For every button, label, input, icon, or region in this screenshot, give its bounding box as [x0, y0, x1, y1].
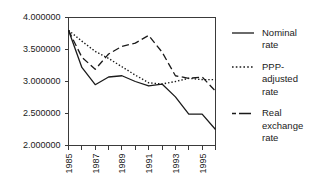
chart-legend: NominalratePPP-adjustedrateRealexchanger…	[232, 27, 303, 144]
series-group	[69, 30, 216, 129]
legend-label: adjusted	[262, 73, 298, 84]
series-line-dashed	[69, 30, 216, 91]
legend-label: rate	[262, 132, 278, 143]
x-tick-label: 1989	[117, 154, 127, 174]
y-axis: 4.0000003.5000003.0000002.5000002.000000	[23, 12, 69, 150]
legend-label: rate	[262, 39, 278, 50]
legend-label: exchange	[262, 120, 303, 131]
x-tick-label: 1991	[144, 154, 154, 174]
x-tick-label: 1987	[91, 154, 101, 174]
y-tick-label: 4.000000	[23, 12, 61, 22]
legend-label: Nominal	[262, 27, 297, 38]
chart-figure: 4.0000003.5000003.0000002.5000002.000000…	[0, 0, 325, 191]
y-tick-label: 2.000000	[23, 140, 61, 150]
line-chart: 4.0000003.5000003.0000002.5000002.000000…	[0, 0, 325, 191]
legend-label: rate	[262, 86, 278, 97]
series-line-dotted	[69, 30, 216, 84]
y-tick-label: 3.000000	[23, 76, 61, 86]
x-tick-label: 1995	[198, 154, 208, 174]
legend-label: Real	[262, 107, 282, 118]
series-line-solid	[69, 30, 216, 129]
legend-label: PPP-	[262, 61, 284, 72]
plot-frame	[69, 18, 216, 146]
y-tick-label: 2.500000	[23, 108, 61, 118]
x-axis: 198519871989199119931995	[64, 146, 216, 174]
x-tick-label: 1985	[64, 154, 74, 174]
y-tick-label: 3.500000	[23, 44, 61, 54]
x-tick-label: 1993	[171, 154, 181, 174]
